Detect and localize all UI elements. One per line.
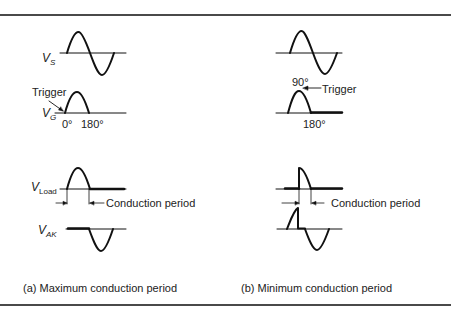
vload-label-sub: Load: [39, 187, 57, 196]
vak-label-text: V: [38, 223, 46, 237]
conduction-period-label-a: Conduction period: [106, 197, 195, 209]
vs-waveform-b: [276, 31, 342, 74]
vs-label-sub: S: [50, 58, 55, 67]
trigger-label-a: Trigger: [32, 86, 66, 98]
vs-label-text: V: [42, 51, 50, 65]
caption-b: (b) Minimum conduction period: [241, 282, 392, 294]
tick-180deg-a: 180°: [81, 118, 104, 130]
vs-waveform-a: [60, 32, 126, 75]
vak-label-sub: AK: [46, 230, 57, 239]
caption-a: (a) Maximum conduction period: [23, 282, 177, 294]
vg-label-text: V: [42, 106, 50, 120]
tick-180deg-b: 180°: [303, 118, 326, 130]
vg-label-sub: G: [50, 113, 56, 122]
vs-label-a: VS: [42, 52, 55, 69]
trigger-label-b: Trigger: [322, 83, 356, 95]
vak-waveform-b: [277, 208, 342, 250]
waveform-drawing: [0, 0, 451, 318]
tick-90deg-b: 90°: [292, 76, 309, 88]
vload-label-a: VLoad: [31, 181, 57, 198]
vak-label-a: VAK: [38, 224, 57, 241]
vak-waveform-a: [66, 229, 126, 252]
tick-0deg-a: 0°: [62, 118, 73, 130]
vload-label-text: V: [31, 180, 39, 194]
vg-label-a: VG: [42, 107, 56, 124]
conduction-period-label-b: Conduction period: [331, 197, 420, 209]
